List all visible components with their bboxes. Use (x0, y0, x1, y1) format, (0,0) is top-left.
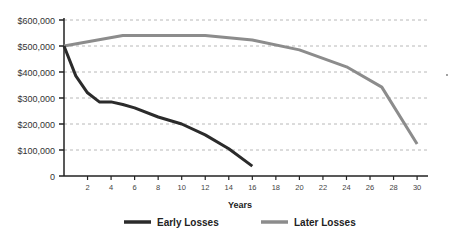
x-tick-label: 14 (225, 183, 233, 192)
x-tick-label: 22 (319, 183, 327, 192)
x-tick-label: 18 (272, 183, 280, 192)
legend-label-later-losses: Later Losses (294, 217, 356, 228)
series-line-later-losses (64, 36, 417, 144)
x-tick-label: 2 (85, 183, 89, 192)
y-tick-label: $300,000 (17, 94, 55, 104)
y-tick-label: $600,000 (17, 16, 55, 26)
line-chart: 0$100,000$200,000$300,000$400,000$500,00… (0, 0, 460, 238)
y-tick-label: $500,000 (17, 42, 55, 52)
x-tick-label: 28 (389, 183, 397, 192)
x-axis-ticks: 24681012141618202224262830 (85, 176, 421, 192)
y-tick-label: $200,000 (17, 120, 55, 130)
y-axis-ticks: 0$100,000$200,000$300,000$400,000$500,00… (17, 16, 64, 182)
x-tick-label: 16 (248, 183, 256, 192)
series-line-early-losses (64, 46, 252, 166)
y-tick-label: 0 (50, 172, 55, 182)
stray-dot (446, 74, 448, 76)
x-tick-label: 24 (342, 183, 350, 192)
legend-label-early-losses: Early Losses (157, 217, 219, 228)
x-tick-label: 30 (413, 183, 421, 192)
x-tick-label: 4 (109, 183, 113, 192)
x-tick-label: 6 (133, 183, 137, 192)
y-tick-label: $100,000 (17, 146, 55, 156)
x-tick-label: 26 (366, 183, 374, 192)
x-tick-label: 10 (178, 183, 186, 192)
x-tick-label: 12 (201, 183, 209, 192)
series-lines (64, 36, 417, 167)
legend: Early Losses Later Losses (124, 217, 356, 228)
x-tick-label: 20 (295, 183, 303, 192)
x-axis-label: Years (228, 200, 252, 210)
x-tick-label: 8 (156, 183, 160, 192)
y-tick-label: $400,000 (17, 68, 55, 78)
